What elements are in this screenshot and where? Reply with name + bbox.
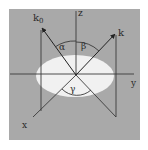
- alpha-angle-label: α: [59, 42, 65, 52]
- scattered-vector-label: k: [118, 27, 125, 38]
- gamma-angle-label: γ: [70, 84, 75, 94]
- axis-z-label: z: [78, 8, 83, 18]
- axis-y-label: y: [130, 78, 137, 88]
- scattering-geometry-diagram: k0 z k α β γ y x: [0, 0, 148, 150]
- beta-angle-label: β: [81, 41, 86, 51]
- axis-x-label: x: [22, 120, 27, 130]
